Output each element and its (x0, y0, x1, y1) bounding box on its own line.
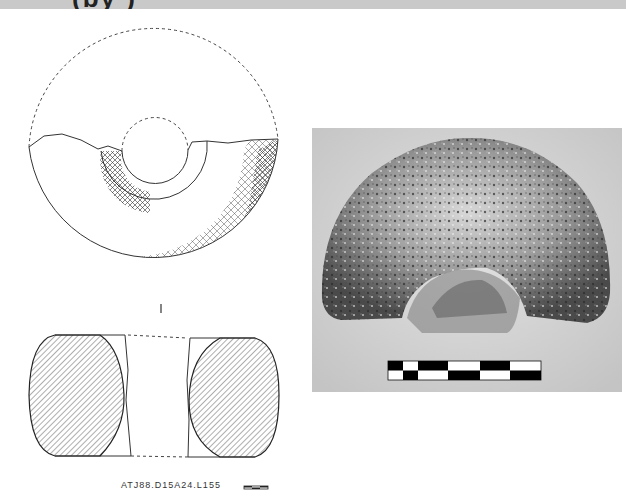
section-view (29, 335, 279, 457)
small-scale-bar (244, 486, 268, 489)
plan-view (29, 28, 279, 278)
photo-scale-bar (388, 361, 541, 380)
catalog-label: ATJ88.D15A24.L155 (121, 480, 221, 490)
artifact-photo (312, 128, 622, 392)
